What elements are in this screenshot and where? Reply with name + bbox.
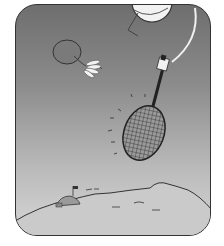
illustration-scene [0, 0, 224, 246]
flag-icon [56, 186, 80, 207]
swing-string [172, 8, 196, 62]
shuttlecock-icon [53, 40, 101, 79]
racket-icon [116, 55, 173, 167]
moon-ball-icon [128, 0, 172, 36]
hills [10, 183, 215, 240]
